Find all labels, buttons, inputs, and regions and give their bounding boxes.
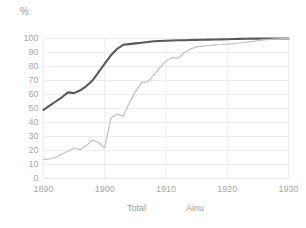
x-tick-label: 1930	[269, 185, 306, 194]
y-tick-label: 0	[15, 174, 39, 183]
chart-legend: Total Ainu	[0, 203, 305, 213]
x-tick-label: 1890	[24, 185, 64, 194]
legend-label-total: Total	[127, 203, 146, 213]
line-chart: % 1009080706050403020100 189019001910192…	[0, 0, 305, 228]
y-tick-label: 30	[15, 132, 39, 141]
x-tick-label: 1900	[85, 185, 125, 194]
y-tick-label: 40	[15, 118, 39, 127]
plot-area	[0, 0, 305, 228]
legend-item-ainu[interactable]: Ainu	[160, 203, 204, 213]
y-tick-label: 20	[15, 146, 39, 155]
y-tick-label: 60	[15, 90, 39, 99]
legend-item-total[interactable]: Total	[101, 203, 146, 213]
y-tick-label: 80	[15, 62, 39, 71]
gridlines	[44, 39, 289, 179]
x-tick-label: 1910	[146, 185, 186, 194]
legend-label-ainu: Ainu	[186, 203, 204, 213]
y-tick-label: 10	[15, 160, 39, 169]
y-tick-label: 90	[15, 48, 39, 57]
y-tick-label: 100	[15, 34, 39, 43]
x-tick-label: 1920	[207, 185, 247, 194]
y-tick-label: 50	[15, 104, 39, 113]
y-tick-label: 70	[15, 76, 39, 85]
